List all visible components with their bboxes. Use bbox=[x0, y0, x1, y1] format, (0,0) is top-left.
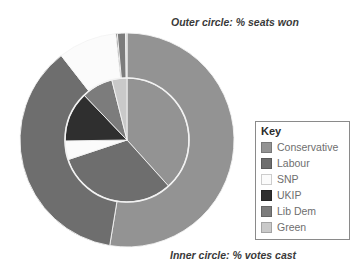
legend-item-label: Labour bbox=[277, 157, 310, 170]
legend-item-labour: Labour bbox=[261, 155, 345, 171]
legend-swatch-icon bbox=[261, 190, 272, 201]
legend-swatch-icon bbox=[261, 206, 272, 217]
legend-item-conservative: Conservative bbox=[261, 139, 345, 155]
inner-circle-title: Inner circle: % votes cast bbox=[170, 249, 297, 261]
legend-item-snp: SNP bbox=[261, 171, 345, 187]
legend-title: Key bbox=[261, 125, 345, 138]
legend-swatch-icon bbox=[261, 222, 272, 233]
legend-swatch-icon bbox=[261, 142, 272, 153]
legend-item-label: Green bbox=[277, 221, 306, 234]
outer-circle-title: Outer circle: % seats won bbox=[171, 16, 299, 28]
legend-item-label: UKIP bbox=[277, 189, 302, 202]
legend-rows: ConservativeLabourSNPUKIPLib DemGreen bbox=[261, 139, 345, 235]
legend-swatch-icon bbox=[261, 174, 272, 185]
legend-item-label: SNP bbox=[277, 173, 299, 186]
legend-item-lib-dem: Lib Dem bbox=[261, 203, 345, 219]
legend-item-ukip: UKIP bbox=[261, 187, 345, 203]
legend-item-label: Lib Dem bbox=[277, 205, 316, 218]
legend-item-label: Conservative bbox=[277, 141, 338, 154]
double-donut-chart: Outer circle: % seats won Inner circle: … bbox=[0, 0, 353, 271]
legend: Key ConservativeLabourSNPUKIPLib DemGree… bbox=[255, 121, 350, 240]
legend-item-green: Green bbox=[261, 219, 345, 235]
legend-swatch-icon bbox=[261, 158, 272, 169]
